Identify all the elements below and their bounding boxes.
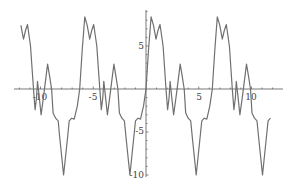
x-tick-label-5: 5: [196, 92, 202, 102]
function-plot: -10 -5 5 10 5 -5 -10: [0, 0, 291, 189]
y-tick-label-5: 5: [138, 41, 144, 51]
y-tick-label-neg10: -10: [130, 170, 145, 180]
y-tick-label-neg5: -5: [135, 126, 144, 136]
x-tick-label-neg5: -5: [89, 92, 98, 102]
